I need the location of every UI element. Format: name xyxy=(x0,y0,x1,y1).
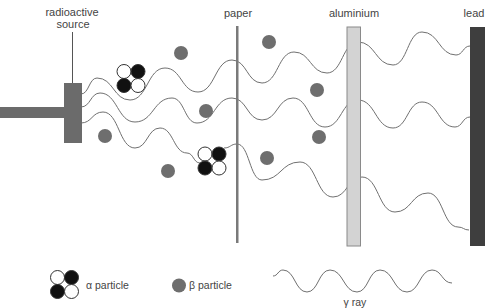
neutron-icon xyxy=(131,79,145,93)
beta-particle xyxy=(310,83,324,97)
beta-particle xyxy=(174,46,188,60)
alpha-particle xyxy=(117,65,145,93)
radioactive-source xyxy=(0,83,82,143)
gamma-rays xyxy=(81,32,470,230)
lead-label: lead xyxy=(464,7,485,19)
alpha-legend-cluster xyxy=(51,271,79,299)
aluminium-label: aluminium xyxy=(329,7,379,19)
lead-block xyxy=(470,27,485,246)
legend: α particle β particle γ ray xyxy=(51,270,453,308)
alpha-particle xyxy=(198,147,226,175)
gamma-ray-icon xyxy=(273,270,452,292)
beta-particle xyxy=(312,130,326,144)
beta-particle xyxy=(98,129,112,143)
proton-icon xyxy=(198,161,212,175)
neutron-icon xyxy=(51,271,65,285)
beta-particle xyxy=(199,104,213,118)
neutron-icon xyxy=(212,161,226,175)
legend-alpha-label: α particle xyxy=(86,279,129,291)
source-label-line2: source xyxy=(56,18,89,30)
proton-icon xyxy=(51,285,65,299)
aluminium-sheet xyxy=(347,27,361,246)
alpha-particles xyxy=(117,65,226,176)
beta-particle xyxy=(161,164,175,178)
gamma-ray-middle xyxy=(81,93,470,128)
source-block xyxy=(64,83,82,143)
legend-gamma-label: γ ray xyxy=(344,296,368,308)
proton-icon xyxy=(131,65,145,79)
proton-icon xyxy=(117,79,131,93)
beta-particle-icon xyxy=(172,279,186,293)
neutron-icon xyxy=(198,147,212,161)
neutron-icon xyxy=(65,285,79,299)
proton-icon xyxy=(65,271,79,285)
paper-sheet xyxy=(236,26,239,243)
radiation-penetration-diagram: radioactive source paper aluminium lead … xyxy=(0,0,486,308)
source-holder-bar xyxy=(0,107,64,118)
alpha-particle-icon xyxy=(51,271,79,299)
beta-particle xyxy=(262,35,276,49)
legend-beta-label: β particle xyxy=(189,279,232,291)
beta-particle xyxy=(260,151,274,165)
paper-label: paper xyxy=(224,7,252,19)
proton-icon xyxy=(212,147,226,161)
neutron-icon xyxy=(117,65,131,79)
source-label-line1: radioactive xyxy=(45,6,98,18)
